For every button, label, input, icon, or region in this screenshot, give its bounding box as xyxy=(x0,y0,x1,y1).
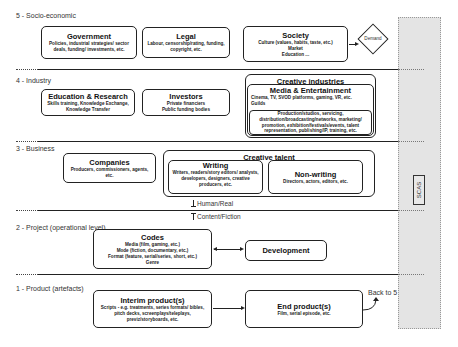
investors-title: Investors xyxy=(169,92,202,101)
investors-desc-public: Public funding bodies xyxy=(162,107,210,113)
arrow-interim-end xyxy=(213,308,243,309)
writing-desc: Writers, readers/story editors/ analysts… xyxy=(172,170,259,188)
arrow-up-bar xyxy=(191,213,196,214)
divider-2-1 xyxy=(38,274,398,275)
companies-title: Companies xyxy=(89,158,129,167)
scas-label: SCAS xyxy=(413,175,425,205)
arrowhead-icon xyxy=(213,247,217,251)
arrow-down-bar xyxy=(191,206,196,207)
legal-title: Legal xyxy=(176,32,196,41)
layer-label-3: 3 - Business xyxy=(16,145,55,152)
interim-products-title: Interim product(s) xyxy=(120,296,184,305)
back-to-5-label: Back to 5 xyxy=(368,289,397,296)
divider-dots xyxy=(398,141,424,142)
arrowhead-icon xyxy=(355,42,359,46)
non-writing-title: Non-writing xyxy=(295,170,337,179)
divider-dots xyxy=(16,274,38,275)
end-products-title: End product(s) xyxy=(277,302,330,311)
divider-dots xyxy=(16,141,38,142)
arrowhead-icon xyxy=(240,247,244,251)
media-desc-platforms: Cinema, TV, SVOD platforms, gaming, VR, … xyxy=(251,95,352,101)
government-box: Government Policies, industrial strategi… xyxy=(41,26,137,59)
divider-dots xyxy=(16,69,38,70)
society-box: Society Culture (values, habits, taste, … xyxy=(243,26,348,62)
divider-dots xyxy=(398,69,424,70)
government-desc: Policies, industrial strategies/ sector … xyxy=(45,41,133,53)
curved-arrow-icon xyxy=(363,296,383,312)
media-entertainment-title: Media & Entertainment xyxy=(270,86,351,95)
government-title: Government xyxy=(67,32,111,41)
divider-3-2 xyxy=(38,210,398,211)
media-desc-guilds: Guilds xyxy=(251,101,265,107)
production-services-desc: Production/studios, servicing, distribut… xyxy=(253,111,368,133)
codes-title: Codes xyxy=(141,233,164,242)
non-writing-desc: Directors, actors, editors, etc. xyxy=(283,179,348,185)
codes-box: Codes Media (film, gaming, etc.) Mode (f… xyxy=(93,229,212,269)
human-real-label: Human/Real xyxy=(197,200,233,207)
arrow-codes-development xyxy=(214,249,242,250)
layer-label-5: 5 - Socio-economic xyxy=(16,12,76,19)
development-box: Development xyxy=(245,240,327,261)
legal-desc: Labour, censorship/rating, funding, copy… xyxy=(146,41,226,53)
end-products-box: End product(s) Film, serial episode, etc… xyxy=(245,290,363,328)
end-products-desc: Film, serial episode, etc. xyxy=(277,311,330,317)
layer-label-2: 2 - Project (operational level) xyxy=(16,224,106,231)
society-title: Society xyxy=(282,31,309,40)
development-title: Development xyxy=(262,246,309,255)
divider-5-4 xyxy=(38,69,398,70)
legal-box: Legal Labour, censorship/rating, funding… xyxy=(142,27,230,58)
divider-4-3 xyxy=(38,141,398,142)
layer-label-4: 4 - Industry xyxy=(16,77,51,84)
writing-title: Writing xyxy=(203,161,229,170)
codes-desc-genre: Genre xyxy=(146,260,159,266)
education-research-box: Education & Research Skills training, Kn… xyxy=(41,89,135,116)
interim-products-box: Interim product(s) Scripts - e.g. treatm… xyxy=(93,290,212,328)
education-research-title: Education & Research xyxy=(48,92,128,101)
scas-strip xyxy=(398,17,441,329)
society-desc-education: Education ... xyxy=(282,52,309,58)
divider-dots xyxy=(398,210,424,211)
production-services-box: Production/studios, servicing, distribut… xyxy=(249,110,372,135)
investors-box: Investors Private financiers Public fund… xyxy=(142,89,230,116)
interim-products-desc: Scripts - e.g. treatments, series format… xyxy=(97,305,208,323)
writing-box: Writing Writers, readers/story editors/ … xyxy=(168,160,263,194)
demand-label: Demand xyxy=(357,36,389,41)
companies-box: Companies Producers, commissioners, agen… xyxy=(63,153,156,183)
arrow-up-line xyxy=(193,213,194,220)
divider-dots xyxy=(16,210,38,211)
content-fiction-label: Content/Fiction xyxy=(197,213,241,220)
companies-desc: Producers, commissioners, agents, etc. xyxy=(67,167,152,179)
education-research-desc: Skills training, Knowledge Exchange, Kno… xyxy=(45,101,131,113)
layer-label-1: 1 - Product (artefacts) xyxy=(16,285,84,292)
non-writing-box: Non-writing Directors, actors, editors, … xyxy=(268,160,363,194)
divider-dots xyxy=(398,274,424,275)
